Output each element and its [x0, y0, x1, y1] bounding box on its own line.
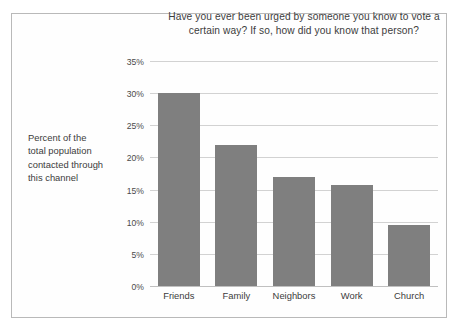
gridline-0pct: 0% — [150, 286, 438, 287]
bars-layer — [150, 61, 438, 286]
y-tick-label-20pct: 20% — [110, 154, 144, 163]
bar-work[interactable] — [331, 185, 373, 286]
bar-friends[interactable] — [158, 93, 200, 286]
y-tick-label-0pct: 0% — [110, 283, 144, 292]
category-label-friends: Friends — [150, 290, 208, 302]
y-axis-label-line-4: this channel — [28, 171, 132, 184]
chart-title-line-2: certain way? If so, how did you know tha… — [160, 24, 448, 38]
category-label-work: Work — [323, 290, 381, 302]
chart-title: Have you ever been urged by someone you … — [160, 10, 448, 38]
category-axis: FriendsFamilyNeighborsWorkChurch — [150, 290, 438, 306]
bar-church[interactable] — [388, 225, 430, 286]
plot-area: 0%5%10%15%20%25%30%35% — [150, 61, 438, 286]
y-tick-label-10pct: 10% — [110, 218, 144, 227]
chart-title-line-1: Have you ever been urged by someone you … — [160, 10, 448, 24]
category-label-family: Family — [208, 290, 266, 302]
y-tick-label-15pct: 15% — [110, 186, 144, 195]
bar-family[interactable] — [215, 145, 257, 286]
y-tick-label-30pct: 30% — [110, 90, 144, 99]
bar-neighbors[interactable] — [273, 177, 315, 286]
y-tick-label-5pct: 5% — [110, 250, 144, 259]
category-label-church: Church — [380, 290, 438, 302]
category-label-neighbors: Neighbors — [265, 290, 323, 302]
y-axis-label-line-1: Percent of the — [28, 131, 132, 144]
y-tick-label-35pct: 35% — [110, 58, 144, 67]
y-tick-label-25pct: 25% — [110, 122, 144, 131]
